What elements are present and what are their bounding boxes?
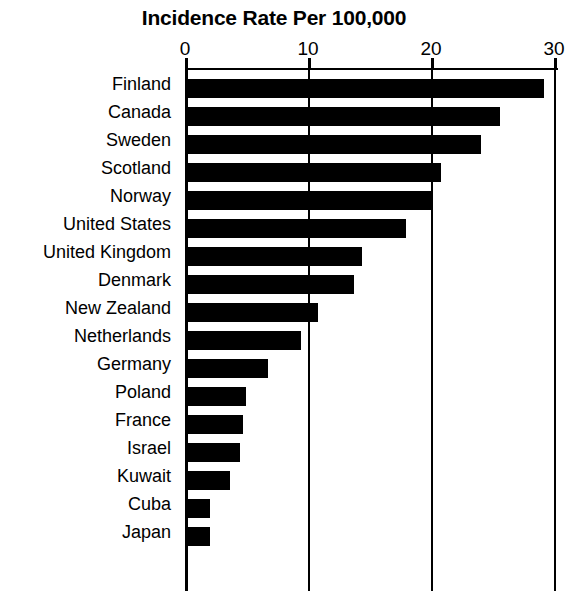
bar-row bbox=[185, 98, 558, 126]
bar bbox=[185, 527, 210, 546]
xtick-label-0: 0 bbox=[165, 38, 205, 60]
bar bbox=[185, 107, 500, 126]
xtick-label-10: 10 bbox=[288, 38, 328, 60]
chart-title: Incidence Rate Per 100,000 bbox=[0, 6, 548, 30]
bar-row bbox=[185, 350, 558, 378]
category-label: Poland bbox=[0, 378, 178, 406]
bar bbox=[185, 191, 431, 210]
category-label: Kuwait bbox=[0, 462, 178, 490]
bar-row bbox=[185, 378, 558, 406]
bar-row bbox=[185, 182, 558, 210]
category-axis-labels: FinlandCanadaSwedenScotlandNorwayUnited … bbox=[0, 70, 178, 591]
bar-row bbox=[185, 210, 558, 238]
bar-row bbox=[185, 238, 558, 266]
category-label: Japan bbox=[0, 518, 178, 546]
bar-row bbox=[185, 406, 558, 434]
bar-row bbox=[185, 518, 558, 546]
bar bbox=[185, 219, 406, 238]
category-label: Cuba bbox=[0, 490, 178, 518]
xtick-mark-20 bbox=[431, 58, 434, 68]
category-label: Norway bbox=[0, 182, 178, 210]
bar bbox=[185, 247, 362, 266]
category-label: Finland bbox=[0, 70, 178, 98]
category-label: New Zealand bbox=[0, 294, 178, 322]
category-label: Denmark bbox=[0, 266, 178, 294]
bar-row bbox=[185, 70, 558, 98]
bar-row bbox=[185, 434, 558, 462]
bar bbox=[185, 275, 354, 294]
bar bbox=[185, 415, 243, 434]
category-label: Israel bbox=[0, 434, 178, 462]
bar-row bbox=[185, 154, 558, 182]
category-label: France bbox=[0, 406, 178, 434]
bar-row bbox=[185, 294, 558, 322]
bar bbox=[185, 359, 268, 378]
bar-row bbox=[185, 490, 558, 518]
category-label: Sweden bbox=[0, 126, 178, 154]
bar bbox=[185, 135, 481, 154]
bar bbox=[185, 303, 318, 322]
bar bbox=[185, 331, 301, 350]
xtick-label-20: 20 bbox=[411, 38, 451, 60]
bar-row bbox=[185, 462, 558, 490]
bar bbox=[185, 163, 441, 182]
bar bbox=[185, 79, 544, 98]
category-label: United Kingdom bbox=[0, 238, 178, 266]
xtick-mark-10 bbox=[308, 58, 311, 68]
bar bbox=[185, 471, 230, 490]
category-label: Germany bbox=[0, 350, 178, 378]
bar bbox=[185, 499, 210, 518]
xtick-mark-30 bbox=[554, 58, 557, 68]
bar bbox=[185, 387, 246, 406]
bar-row bbox=[185, 322, 558, 350]
plot-area bbox=[185, 68, 558, 591]
category-label: United States bbox=[0, 210, 178, 238]
bar-row bbox=[185, 266, 558, 294]
bar bbox=[185, 443, 240, 462]
xtick-label-30: 30 bbox=[534, 38, 569, 60]
bar-series bbox=[185, 70, 558, 591]
bar-row bbox=[185, 126, 558, 154]
category-label: Canada bbox=[0, 98, 178, 126]
category-label: Scotland bbox=[0, 154, 178, 182]
category-label: Netherlands bbox=[0, 322, 178, 350]
